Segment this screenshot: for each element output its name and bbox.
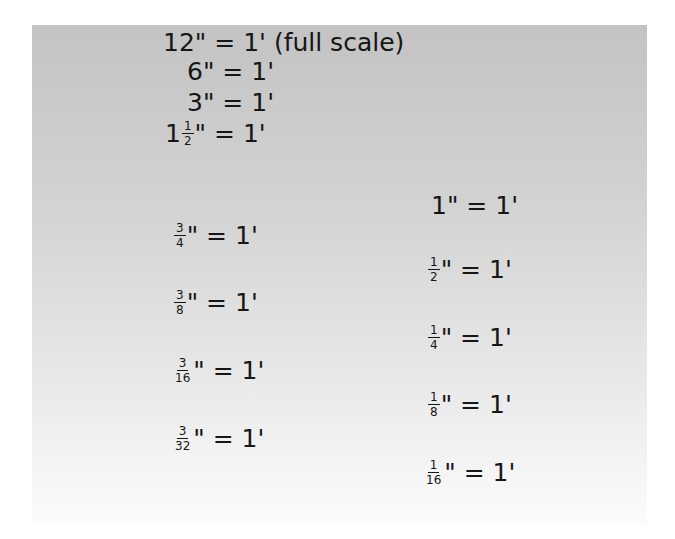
scale-rest: " = 1'	[195, 121, 266, 146]
scale-rest: " = 1'	[193, 358, 264, 383]
scale-3-4in: 3 4 " = 1'	[173, 222, 258, 249]
scale-whole: 3	[187, 90, 203, 115]
fraction-numerator: 1	[428, 256, 440, 270]
scale-fraction: 3 16	[173, 357, 192, 384]
fraction-numerator: 3	[177, 425, 189, 439]
scale-rest: " = 1'	[441, 257, 512, 282]
scale-3-16in: 3 16 " = 1'	[172, 357, 264, 384]
fraction-denominator: 8	[428, 405, 440, 418]
scale-panel	[32, 25, 647, 525]
scale-rest: " = 1'	[193, 426, 264, 451]
scale-1-8in: 1 8 " = 1'	[427, 391, 512, 418]
fraction-denominator: 32	[173, 439, 192, 452]
fraction-numerator: 3	[174, 222, 186, 236]
fraction-denominator: 8	[174, 303, 186, 316]
scale-rest: " = 1'	[441, 325, 512, 350]
fraction-numerator: 3	[177, 357, 189, 371]
scale-1-4in: 1 4 " = 1'	[427, 324, 512, 351]
scale-3-8in: 3 8 " = 1'	[173, 289, 258, 316]
scale-fraction: 1 8	[428, 391, 440, 418]
scale-fraction: 3 8	[174, 289, 186, 316]
scale-whole: 1	[165, 121, 181, 146]
scale-rest: " = 1'	[187, 223, 258, 248]
scale-3-32in: 3 32 " = 1'	[172, 425, 264, 452]
scale-fraction: 3 4	[174, 222, 186, 249]
scale-1-1-2in: 1 1 2 " = 1'	[165, 120, 266, 147]
scale-fraction: 1 16	[424, 459, 443, 486]
scale-fraction: 1 4	[428, 324, 440, 351]
scale-rest: " = 1'	[441, 392, 512, 417]
scale-rest: " = 1'	[203, 90, 274, 115]
fraction-numerator: 1	[182, 120, 194, 134]
fraction-numerator: 1	[428, 391, 440, 405]
scale-fraction: 1 2	[182, 120, 194, 147]
fraction-numerator: 1	[428, 459, 440, 473]
fraction-numerator: 1	[428, 324, 440, 338]
scale-whole: 6	[187, 59, 203, 84]
fraction-numerator: 3	[174, 289, 186, 303]
scale-whole: 1	[431, 193, 447, 218]
scale-rest: " = 1'	[444, 460, 515, 485]
scale-1-2in: 1 2 " = 1'	[427, 256, 512, 283]
scale-1-16in: 1 16 " = 1'	[423, 459, 515, 486]
scale-rest: " = 1' (full scale)	[195, 30, 404, 55]
scale-rest: " = 1'	[447, 193, 518, 218]
scale-fraction: 1 2	[428, 256, 440, 283]
fraction-denominator: 2	[428, 270, 440, 283]
scale-fraction: 3 32	[173, 425, 192, 452]
scale-3in: 3 " = 1'	[187, 90, 274, 115]
fraction-denominator: 16	[424, 473, 443, 486]
scale-12in-full: 12 " = 1' (full scale)	[163, 30, 404, 55]
fraction-denominator: 4	[428, 338, 440, 351]
fraction-denominator: 16	[173, 371, 192, 384]
scale-whole: 12	[163, 30, 195, 55]
scale-1in: 1 " = 1'	[431, 193, 518, 218]
fraction-denominator: 2	[182, 134, 194, 147]
scale-rest: " = 1'	[203, 59, 274, 84]
scale-6in: 6 " = 1'	[187, 59, 274, 84]
scale-rest: " = 1'	[187, 290, 258, 315]
fraction-denominator: 4	[174, 236, 186, 249]
